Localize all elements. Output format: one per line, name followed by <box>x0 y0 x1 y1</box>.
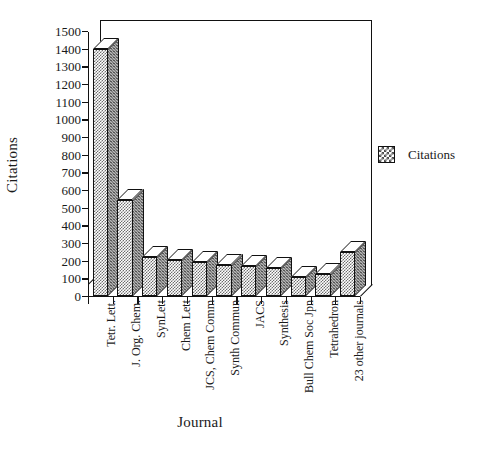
y-tick-mark <box>82 261 88 262</box>
x-axis-title: Journal <box>0 414 400 431</box>
x-category-label: Bull Chem Soc Jpn <box>303 300 315 393</box>
y-tick-label: 800 <box>62 148 82 161</box>
plot-area: 0100200300400500600700800900100011001200… <box>88 20 374 297</box>
y-axis-line <box>88 32 89 297</box>
y-tick-label: 300 <box>62 237 82 250</box>
x-category-label: JACS <box>254 300 266 328</box>
y-tick-mark <box>82 155 88 156</box>
x-category-label: JCS, Chem Comm <box>204 300 216 390</box>
x-axis-line <box>88 296 360 297</box>
y-tick-mark <box>82 102 88 103</box>
y-tick-label: 0 <box>75 290 82 303</box>
bar-front-face <box>291 277 306 296</box>
y-tick-label: 200 <box>62 254 82 267</box>
y-tick-mark <box>82 49 88 50</box>
y-tick-label: 1100 <box>55 95 81 108</box>
y-tick-label: 400 <box>62 219 82 232</box>
x-category-label: J. Org. Chem. <box>130 300 142 367</box>
bar-front-face <box>192 262 207 296</box>
y-tick-mark <box>82 208 88 209</box>
x-category-label: Synthesis <box>278 300 290 346</box>
y-tick-label: 1500 <box>55 25 81 38</box>
bar <box>241 266 256 296</box>
y-tick-label: 500 <box>62 201 82 214</box>
x-category-label: Tetrahedron <box>328 300 340 358</box>
bar-front-face <box>142 257 157 296</box>
y-tick-mark <box>82 190 88 191</box>
bar-chart: Citations 010020030040050060070080090010… <box>0 0 486 449</box>
bar <box>216 265 231 296</box>
x-category-label: 23 other journals <box>353 300 365 381</box>
bar <box>93 49 108 296</box>
y-tick-mark <box>82 84 88 85</box>
bar-front-face <box>93 49 108 296</box>
y-tick-mark <box>82 243 88 244</box>
bar <box>117 200 132 296</box>
bar <box>192 262 207 296</box>
x-axis-category-labels: Tetr. Lett.J. Org. Chem.SynLettChem Lett… <box>88 300 378 410</box>
bar-front-face <box>241 266 256 296</box>
y-axis-title: Citations <box>4 100 21 230</box>
y-tick-label: 1300 <box>55 60 81 73</box>
chart-legend: Citations <box>378 146 455 163</box>
bar <box>291 277 306 296</box>
bar <box>167 260 182 296</box>
bar <box>266 268 281 296</box>
bar <box>142 257 157 296</box>
x-category-label: SynLett <box>155 300 167 338</box>
y-tick-label: 100 <box>62 272 82 285</box>
bar-front-face <box>266 268 281 296</box>
bar-front-face <box>216 265 231 296</box>
y-tick-label: 1200 <box>55 78 81 91</box>
y-tick-mark <box>82 225 88 226</box>
bar-front-face <box>167 260 182 296</box>
bar-front-face <box>340 252 355 296</box>
legend-label-citations: Citations <box>408 147 455 163</box>
bar-front-face <box>315 274 330 296</box>
y-tick-mark <box>82 66 88 67</box>
x-category-label: Chem Lett <box>180 300 192 351</box>
y-tick-mark <box>82 31 88 32</box>
y-tick-label: 900 <box>62 131 82 144</box>
y-tick-label: 700 <box>62 166 82 179</box>
y-tick-mark <box>82 137 88 138</box>
y-tick-label: 600 <box>62 184 82 197</box>
y-tick-mark <box>82 278 88 279</box>
y-tick-mark <box>82 119 88 120</box>
y-tick-mark <box>82 172 88 173</box>
bar <box>315 274 330 296</box>
dotted-pattern-swatch <box>378 146 395 163</box>
x-category-label: Synth Commun <box>229 300 241 376</box>
y-tick-label: 1400 <box>55 42 81 55</box>
y-tick-label: 1000 <box>55 113 81 126</box>
bar <box>340 252 355 296</box>
bar-front-face <box>117 200 132 296</box>
x-category-label: Tetr. Lett. <box>105 300 117 347</box>
